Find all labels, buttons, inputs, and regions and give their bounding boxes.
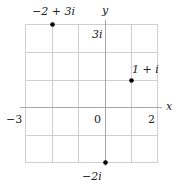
point-label-1-plus-i: 1 + i	[132, 63, 159, 76]
y-axis-label: y	[101, 4, 109, 17]
x-axis-label: x	[166, 100, 173, 113]
point-label-neg2-plus-3i: −2 + 3i	[32, 5, 75, 18]
tick-label-y-3i: 3i	[92, 28, 103, 41]
tick-label-x-2: 2	[148, 113, 155, 126]
complex-plane-diagram: x y −3 0 2 3i −2i −2 + 3i 1 + i	[0, 0, 183, 184]
point-neg2i	[103, 160, 108, 165]
point-1-plus-i	[129, 78, 134, 83]
tick-label-x-neg3: −3	[6, 113, 22, 126]
grid	[25, 24, 158, 163]
point-neg2-plus-3i	[50, 22, 55, 27]
axes	[20, 20, 162, 166]
tick-label-origin: 0	[94, 113, 101, 126]
tick-label-y-neg2i: −2i	[82, 170, 102, 183]
